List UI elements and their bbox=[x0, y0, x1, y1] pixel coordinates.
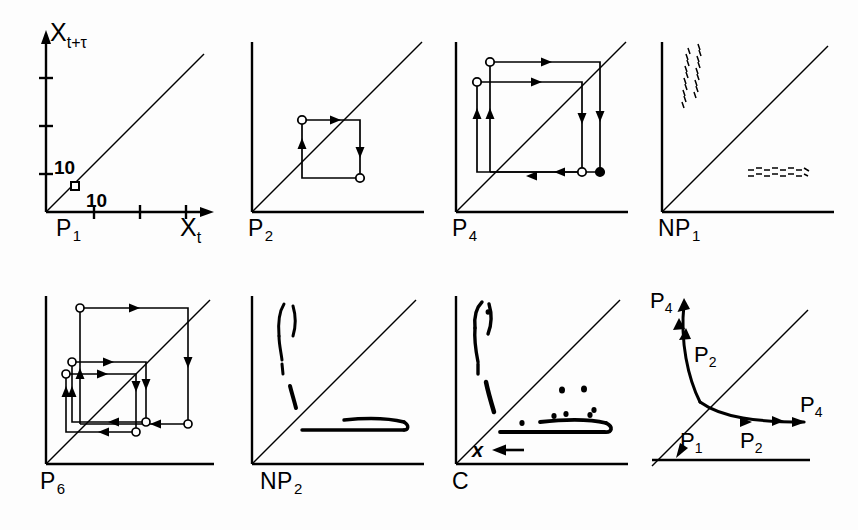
panel-np2 bbox=[238, 282, 428, 477]
bifurcation-label-p2-lower: P2 bbox=[740, 428, 762, 454]
bifurcation-branch-right bbox=[700, 402, 804, 422]
orbit-arrowheads-p4 bbox=[473, 58, 605, 181]
orbit-point-open bbox=[62, 370, 70, 378]
identity-diagonal-np2 bbox=[252, 300, 416, 464]
noise-cluster-vertical-hook bbox=[279, 304, 296, 374]
orbit-point-open bbox=[298, 116, 306, 124]
orbit-arrowheads-p6 bbox=[62, 304, 193, 437]
bifurcation-label-p1: P1 bbox=[680, 428, 702, 454]
chaos-cluster-horizontal bbox=[500, 420, 611, 432]
orbit-point-open bbox=[578, 168, 586, 176]
panel-np1 bbox=[648, 26, 838, 221]
annotation-x-marker: x bbox=[472, 439, 483, 462]
panel-p6 bbox=[28, 282, 218, 477]
x-axis-arrowhead bbox=[200, 207, 214, 217]
panel-p4 bbox=[442, 26, 632, 221]
panel-bifurcation: P4 P2 P4 P1 P2 bbox=[648, 282, 848, 477]
panel-label-np1: NP1 bbox=[658, 215, 700, 242]
y-tick-label-10: 10 bbox=[54, 157, 75, 179]
panel-label-p2: P2 bbox=[248, 215, 273, 242]
x-tick-label-10: 10 bbox=[86, 190, 107, 212]
panel-label-p4: P4 bbox=[452, 215, 477, 242]
period2-orbit-path bbox=[302, 120, 360, 178]
noise-cluster-vertical bbox=[682, 44, 701, 108]
orbit-point-open bbox=[184, 420, 192, 428]
fixed-point-marker bbox=[71, 182, 79, 190]
period6-orbit-path bbox=[66, 308, 188, 432]
bifurcation-label-p4-right: P4 bbox=[800, 392, 822, 418]
orbit-point-open bbox=[142, 418, 150, 426]
panel-c: x bbox=[442, 282, 632, 477]
identity-diagonal-p2 bbox=[252, 42, 422, 212]
panel-label-np2: NP2 bbox=[260, 468, 302, 495]
noise-cluster-horizontal bbox=[748, 168, 809, 176]
panel-label-p1: P1 bbox=[56, 215, 81, 242]
identity-diagonal-p6 bbox=[46, 300, 210, 464]
orbit-point-open bbox=[473, 78, 481, 86]
orbit-point-open bbox=[132, 428, 140, 436]
orbit-arrowheads-p2 bbox=[298, 116, 365, 159]
annotation-left-arrow bbox=[492, 445, 524, 456]
orbit-point-open bbox=[486, 58, 494, 66]
y-axis-label: Xt+τ bbox=[50, 18, 87, 47]
orbit-point-filled bbox=[596, 168, 604, 176]
orbit-point-open bbox=[76, 304, 84, 312]
panel-label-p6: P6 bbox=[40, 468, 65, 495]
x-axis-label: Xt bbox=[180, 213, 201, 242]
bifurcation-label-p2-upper: P2 bbox=[694, 342, 716, 368]
figure-canvas: Xt+τ 10 10 Xt P1 bbox=[0, 0, 858, 530]
identity-diagonal-p1 bbox=[46, 54, 204, 212]
chaos-outlier-points bbox=[486, 309, 597, 426]
identity-diagonal-bifurcation bbox=[652, 310, 808, 466]
noise-cluster-horizontal bbox=[302, 419, 408, 430]
orbit-point-open bbox=[356, 174, 364, 182]
bifurcation-label-p4-upper: P4 bbox=[650, 288, 672, 314]
panel-p2 bbox=[238, 26, 428, 221]
noise-cluster-steep-segment bbox=[290, 386, 296, 408]
orbit-point-open bbox=[68, 358, 76, 366]
chaos-cluster-steep-segment bbox=[486, 382, 494, 412]
panel-label-c: C bbox=[452, 468, 469, 495]
panel-p1: Xt+τ 10 10 Xt bbox=[28, 26, 218, 221]
